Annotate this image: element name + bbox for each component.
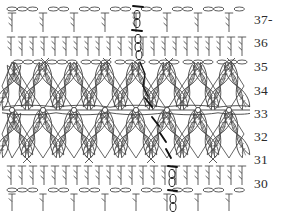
row-label-30: 30 (254, 177, 268, 191)
row-label-32: 32 (254, 130, 268, 144)
crochet-chart-page: 37- 36 35 34 33 32 31 30 (0, 0, 286, 214)
row-label-37: 37- (254, 13, 273, 27)
stitch-diagram (0, 0, 286, 214)
row-label-axis: 37- 36 35 34 33 32 31 30 (250, 0, 286, 214)
row-label-34: 34 (254, 84, 268, 98)
row-label-36: 36 (254, 36, 268, 50)
row-label-31: 31 (254, 153, 268, 167)
row-label-35: 35 (254, 60, 268, 74)
row-label-33: 33 (254, 107, 268, 121)
